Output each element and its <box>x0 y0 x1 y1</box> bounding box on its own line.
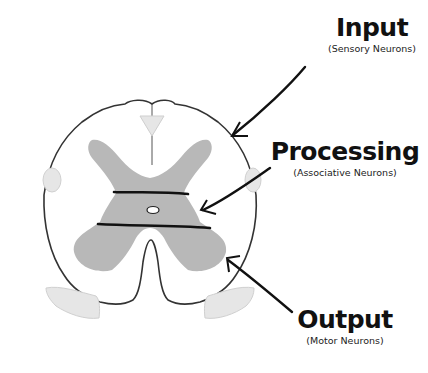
processing-title: Processing <box>262 138 428 166</box>
input-label: Input (Sensory Neurons) <box>322 14 422 54</box>
output-title: Output <box>290 306 400 334</box>
lateral-tract-left <box>43 168 61 192</box>
processing-subtitle: (Associative Neurons) <box>262 167 428 178</box>
input-title: Input <box>322 14 422 42</box>
input-subtitle: (Sensory Neurons) <box>322 43 422 54</box>
output-label: Output (Motor Neurons) <box>290 306 400 346</box>
output-subtitle: (Motor Neurons) <box>290 335 400 346</box>
central-canal <box>147 207 159 214</box>
input-arrow-icon <box>232 67 305 136</box>
processing-label: Processing (Associative Neurons) <box>262 138 428 178</box>
